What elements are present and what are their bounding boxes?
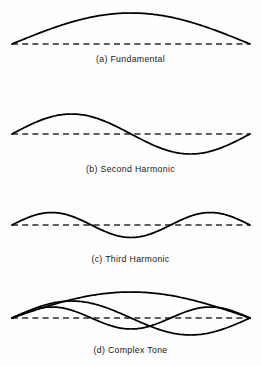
caption-fundamental: (a) Fundamental	[8, 54, 253, 64]
panel-fundamental	[12, 13, 250, 44]
caption-third-harmonic: (c) Third Harmonic	[8, 254, 253, 264]
harmonics-figure: (a) Fundamental (b) Second Harmonic (c) …	[0, 0, 261, 366]
panel-second-harmonic	[12, 114, 250, 154]
caption-second-harmonic: (b) Second Harmonic	[8, 164, 253, 174]
panel-third-harmonic	[12, 213, 250, 238]
curve-fundamental	[12, 13, 250, 44]
panel-complex-tone	[12, 292, 250, 335]
caption-complex-tone: (d) Complex Tone	[8, 345, 253, 355]
